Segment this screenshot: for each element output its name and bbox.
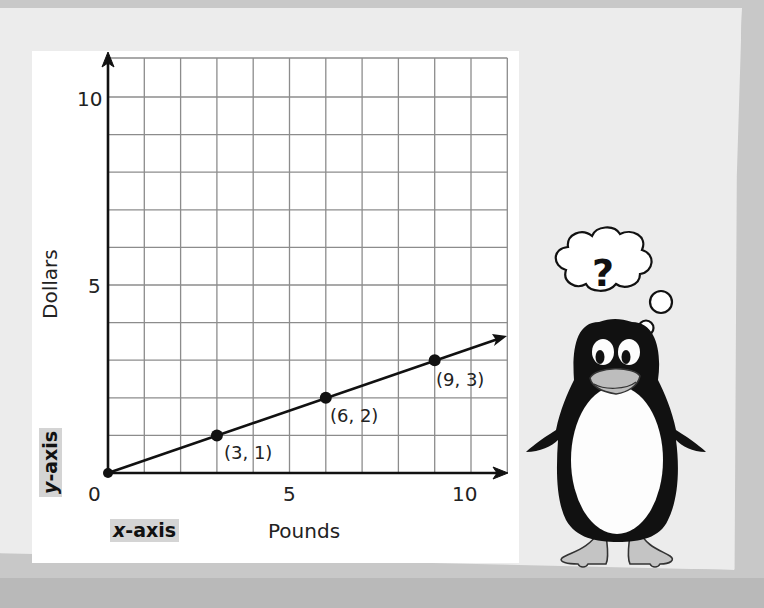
question-mark-icon: ? <box>592 251 614 295</box>
penguin-body <box>526 319 706 542</box>
penguin-illustration: ? <box>0 0 764 608</box>
